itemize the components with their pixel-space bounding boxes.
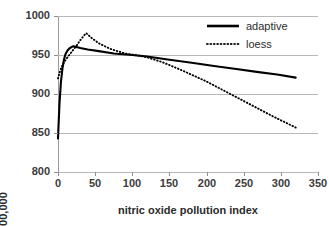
y-axis-title: death rate per 100,000 [0, 172, 11, 226]
ytick-label-900: 900 [14, 88, 50, 99]
xtick-label-150: 150 [154, 178, 184, 189]
ytick-label-950: 950 [14, 49, 50, 60]
xtick-mark-100 [132, 172, 133, 176]
xtick-mark-200 [207, 172, 208, 176]
xtick-mark-50 [95, 172, 96, 176]
ytick-mark-900 [54, 94, 58, 95]
dotted-line-swatch [206, 39, 240, 49]
legend-entry-adaptive: adaptive [206, 17, 316, 35]
ytick-label-1000: 1000 [14, 10, 50, 21]
ytick-label-850: 850 [14, 127, 50, 138]
x-axis-title: nitric oxide pollution index [58, 204, 318, 216]
gridline-800 [58, 172, 318, 173]
xtick-label-250: 250 [229, 178, 259, 189]
xtick-mark-300 [281, 172, 282, 176]
xtick-mark-250 [244, 172, 245, 176]
xtick-label-50: 50 [80, 178, 110, 189]
chart-container: 1000 950 900 850 800 0 50 100 150 200 25… [0, 0, 329, 226]
series-line-adaptive [58, 46, 296, 138]
legend-label-loess: loess [240, 38, 272, 50]
xtick-mark-0 [58, 172, 59, 176]
xtick-mark-350 [318, 172, 319, 176]
legend-label-adaptive: adaptive [240, 20, 288, 32]
ytick-mark-950 [54, 55, 58, 56]
solid-line-swatch [206, 21, 240, 31]
ytick-mark-850 [54, 133, 58, 134]
xtick-label-300: 300 [266, 178, 296, 189]
xtick-label-100: 100 [117, 178, 147, 189]
ytick-label-800: 800 [14, 166, 50, 177]
xtick-label-200: 200 [192, 178, 222, 189]
xtick-label-350: 350 [303, 178, 329, 189]
ytick-mark-1000 [54, 16, 58, 17]
xtick-mark-150 [169, 172, 170, 176]
xtick-label-0: 0 [43, 178, 73, 189]
legend-entry-loess: loess [206, 35, 316, 53]
chart-legend: adaptive loess [206, 17, 316, 53]
